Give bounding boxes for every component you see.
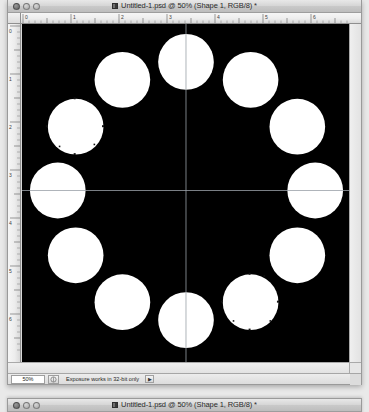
window2-title-row: Untitled-1.psd @ 50% (Shape 1, RGB/8) * [8, 400, 361, 409]
svg-text:5: 5 [9, 268, 12, 274]
svg-text:2: 2 [9, 124, 12, 130]
circle-2oclock[interactable] [269, 99, 325, 155]
window2-title-text: Untitled-1.psd @ 50% (Shape 1, RGB/8) * [121, 400, 257, 409]
svg-text:2: 2 [121, 14, 124, 20]
svg-text:0: 0 [25, 14, 28, 20]
zoom-level-field[interactable]: 50% [11, 375, 45, 384]
image-canvas[interactable] [22, 24, 349, 362]
shape-layer-artwork [22, 24, 349, 362]
horizontal-ruler-ticks: 0 1 2 3 4 5 6 [21, 13, 351, 24]
circle-11oclock[interactable] [95, 52, 151, 108]
svg-text:4: 4 [217, 14, 220, 20]
psd-document-icon-2 [112, 402, 118, 408]
grip-glyph [50, 376, 57, 383]
svg-text:1: 1 [9, 76, 12, 82]
svg-text:3: 3 [169, 14, 172, 20]
resize-grip-icon[interactable] [48, 375, 59, 384]
svg-text:6: 6 [313, 14, 316, 20]
status-menu-arrow[interactable]: ▶ [145, 375, 154, 383]
circle-8oclock[interactable] [48, 227, 104, 283]
horizontal-scrollbar[interactable] [8, 362, 349, 373]
status-message: Exposure works in 32-bit only [66, 376, 139, 382]
circle-1oclock[interactable] [223, 52, 279, 108]
document-window-2[interactable]: Untitled-1.psd @ 50% (Shape 1, RGB/8) * [7, 398, 362, 412]
window-resize-grip[interactable] [350, 374, 361, 385]
svg-text:6: 6 [9, 316, 12, 322]
canvas-viewport[interactable] [22, 24, 349, 362]
circle-10oclock[interactable] [48, 99, 104, 155]
psd-document-icon [112, 3, 118, 9]
circle-7oclock[interactable] [95, 274, 151, 330]
window-title-row: Untitled-1.psd @ 50% (Shape 1, RGB/8) * [8, 1, 361, 10]
horizontal-ruler[interactable]: 0 1 2 3 4 5 6 [21, 13, 361, 24]
window-titlebar[interactable]: Untitled-1.psd @ 50% (Shape 1, RGB/8) * [8, 0, 361, 13]
status-bar: 50% Exposure works in 32-bit only ▶ [8, 373, 361, 384]
svg-text:3: 3 [9, 172, 12, 178]
svg-text:1: 1 [73, 14, 76, 20]
zoom-level-value: 50% [22, 376, 33, 382]
document-window[interactable]: Untitled-1.psd @ 50% (Shape 1, RGB/8) * [7, 0, 362, 385]
svg-text:4: 4 [9, 220, 12, 226]
status-empty-area [154, 374, 350, 384]
circle-4oclock[interactable] [269, 227, 325, 283]
screenshot-root: Untitled-1.psd @ 50% (Shape 1, RGB/8) * [0, 0, 369, 412]
scrollbar-corner [349, 362, 361, 373]
vertical-ruler[interactable]: 0 1 2 3 4 5 6 [8, 24, 21, 362]
vertical-ruler-ticks: 0 1 2 3 4 5 6 [8, 24, 21, 362]
svg-text:5: 5 [265, 14, 268, 20]
ruler-corner-box[interactable] [8, 13, 21, 24]
svg-text:0: 0 [9, 28, 12, 34]
vertical-scrollbar[interactable] [349, 24, 361, 362]
window-title-text: Untitled-1.psd @ 50% (Shape 1, RGB/8) * [121, 1, 257, 10]
window2-titlebar[interactable]: Untitled-1.psd @ 50% (Shape 1, RGB/8) * [8, 399, 361, 412]
